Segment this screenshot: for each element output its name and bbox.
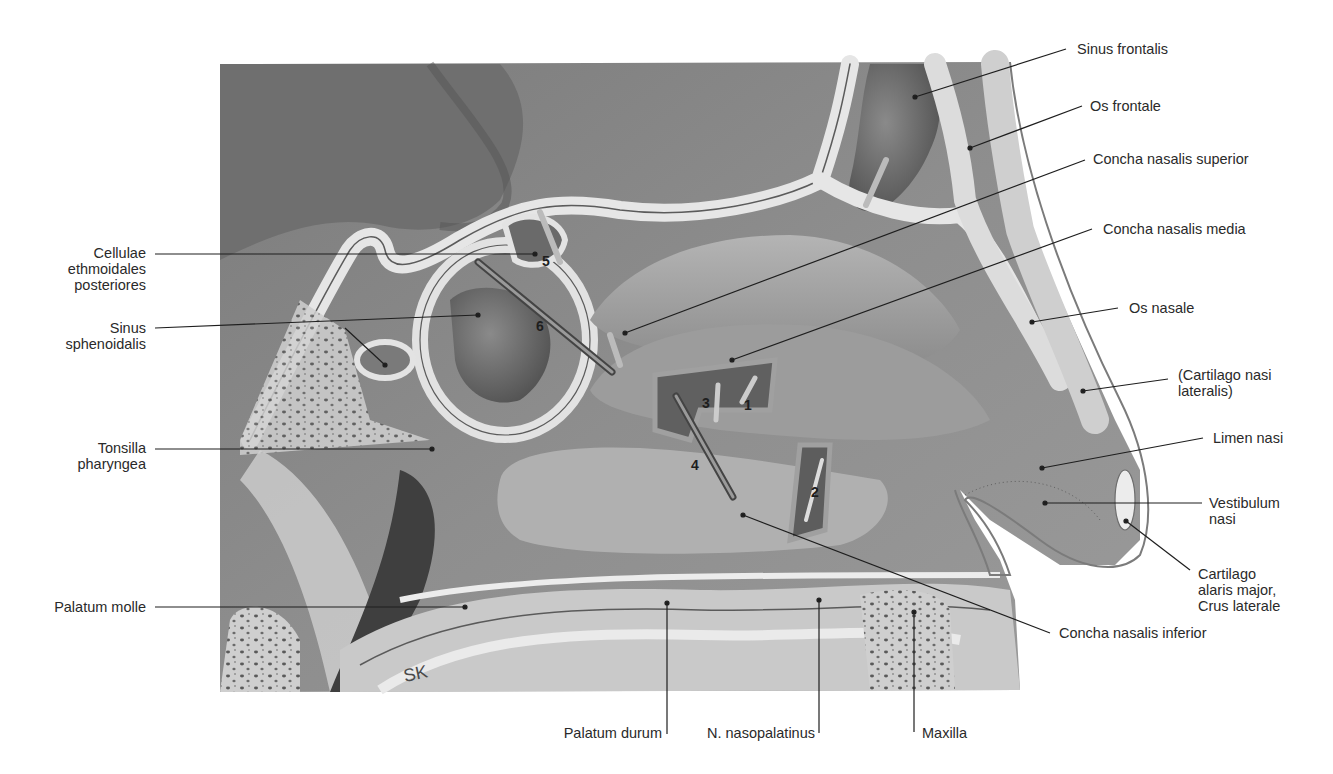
probe-number-2: 2 (811, 484, 819, 500)
nasal-cavity-illustration: 1 2 3 4 5 6 SK (0, 0, 1333, 774)
label-concha-nasalis-inferior: Concha nasalis inferior (1059, 625, 1207, 641)
probe-number-6: 6 (536, 318, 544, 334)
probe-number-1: 1 (744, 397, 752, 413)
label-sinus-frontalis: Sinus frontalis (1077, 41, 1168, 57)
label-palatum-molle: Palatum molle (54, 599, 146, 615)
label-os-frontale: Os frontale (1090, 98, 1161, 114)
anatomy-figure: 1 2 3 4 5 6 SK Cellulae ethmoidales post… (0, 0, 1333, 774)
label-concha-nasalis-media: Concha nasalis media (1103, 221, 1246, 237)
probe-number-3: 3 (702, 395, 710, 411)
probe-number-5: 5 (542, 253, 550, 269)
label-palatum-durum: Palatum durum (564, 725, 662, 741)
label-tonsilla-pharyngea: Tonsilla pharyngea (77, 440, 146, 472)
label-cartilago-nasi-lateralis: (Cartilago nasi lateralis) (1178, 367, 1272, 399)
label-maxilla: Maxilla (922, 725, 967, 741)
label-limen-nasi: Limen nasi (1213, 430, 1283, 446)
label-vestibulum-nasi: Vestibulum nasi (1209, 495, 1280, 527)
label-sinus-sphenoidalis: Sinus sphenoidalis (65, 320, 146, 352)
label-n-nasopalatinus: N. nasopalatinus (707, 725, 815, 741)
probe-number-4: 4 (691, 457, 699, 473)
label-os-nasale: Os nasale (1129, 300, 1194, 316)
label-concha-nasalis-superior: Concha nasalis superior (1093, 151, 1249, 167)
label-cartilago-alaris-major: Cartilago alaris major, Crus laterale (1198, 566, 1280, 614)
label-cellulae-ethmoidales-posteriores: Cellulae ethmoidales posteriores (68, 245, 146, 293)
